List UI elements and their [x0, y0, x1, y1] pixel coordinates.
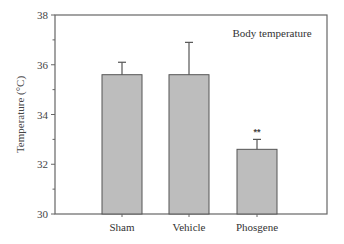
x-tick-label: Vehicle	[173, 221, 206, 233]
y-axis-title: Temperature (°C)	[14, 76, 27, 154]
bar-vehicle	[169, 75, 209, 214]
y-tick-label: 34	[37, 109, 49, 121]
bar-sham	[102, 75, 142, 214]
chart-title: Body temperature	[232, 27, 311, 39]
y-tick-label: 32	[37, 158, 48, 170]
y-tick-label: 30	[37, 208, 49, 220]
y-tick-label: 38	[37, 9, 49, 21]
bar-phosgene	[237, 149, 277, 214]
significance-marker: **	[253, 127, 261, 137]
plot-area: 3032343638Temperature (°C)Body temperatu…	[14, 9, 327, 233]
bar-chart: 3032343638Temperature (°C)Body temperatu…	[0, 0, 344, 244]
y-tick-label: 36	[37, 59, 49, 71]
x-tick-label: Phosgene	[236, 221, 278, 233]
x-tick-label: Sham	[109, 221, 135, 233]
